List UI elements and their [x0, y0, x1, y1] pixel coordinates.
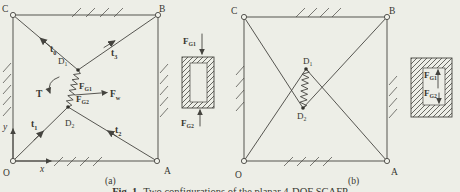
cable-t3 — [78, 15, 158, 70]
label-torque: T — [36, 89, 43, 99]
point-d2-dot-b — [301, 106, 305, 110]
hatch-ticks-top-b — [296, 8, 341, 17]
label-c-a: C — [2, 4, 8, 14]
hatch-ticks-right-a — [160, 64, 168, 117]
label-t3: t3 — [111, 48, 117, 60]
figure-number: Fig. 1 — [112, 186, 137, 192]
hatch-ticks-left-b — [236, 66, 244, 111]
figure-caption-text: Two configurations of the planar 4-DOF S… — [143, 186, 348, 192]
torque-arc-arrow — [49, 77, 59, 93]
label-b-b: B — [389, 6, 395, 16]
cable-a-d1 — [306, 69, 387, 161]
hatch-ticks-bottom-a — [54, 157, 102, 166]
anchor-c — [10, 12, 15, 17]
label-o-a: O — [3, 168, 10, 178]
cable-t1-arrow — [34, 132, 43, 141]
label-a-b: A — [391, 167, 398, 177]
label-fw: Fw — [110, 89, 121, 101]
diagram-a: C B O A t0 t3 t1 t2 D1 D2 FG1 FG2 Fw T x… — [2, 4, 171, 178]
inset-right-block: FG1 FG2 — [411, 58, 452, 117]
label-a-a: A — [164, 166, 171, 176]
anchor-o-b — [241, 158, 246, 163]
anchor-o — [10, 158, 15, 163]
hatch-ticks-right-b — [389, 76, 397, 118]
label-c-b: C — [231, 6, 237, 16]
point-d1-dot — [76, 68, 80, 72]
figure-caption: Fig. 1Two configurations of the planar 4… — [0, 186, 460, 192]
label-fg2-a: FG2 — [76, 94, 89, 105]
anchor-a-b — [384, 158, 389, 163]
inset-left-fg2-label: FG2 — [181, 118, 194, 129]
inset-left-inner — [190, 63, 207, 102]
label-x-axis: x — [39, 164, 45, 174]
cable-c-d2 — [244, 17, 303, 108]
hatch-ticks-top-a — [72, 8, 123, 17]
label-d1-b: D1 — [303, 56, 313, 67]
cable-b-d2 — [303, 17, 387, 108]
label-t1: t1 — [31, 119, 37, 131]
label-o-b: O — [235, 170, 242, 180]
anchor-c-b — [241, 14, 246, 19]
label-t2: t2 — [115, 125, 121, 137]
point-d1-dot-b — [304, 67, 308, 71]
inset-left-block: FG1 FG2 — [181, 34, 214, 129]
point-d2-dot — [66, 105, 70, 109]
figure-canvas: C B O A t0 t3 t1 t2 D1 D2 FG1 FG2 Fw T x… — [0, 0, 460, 192]
label-y-axis: y — [2, 122, 8, 132]
label-d1-a: D1 — [58, 56, 68, 67]
label-b-a: B — [159, 4, 165, 14]
label-t0: t0 — [50, 44, 56, 56]
label-d2-b: D2 — [297, 111, 307, 122]
anchor-a — [154, 158, 159, 163]
diagram-b: C B O A D1 D2 — [231, 6, 398, 180]
label-fg1-a: FG1 — [79, 81, 92, 92]
inset-left-fg1-label: FG1 — [183, 36, 196, 47]
hatch-ticks-bottom-b — [284, 157, 332, 166]
hatch-ticks-left-a — [3, 63, 11, 116]
cable-t0-arrow — [41, 39, 51, 47]
frame-b — [244, 17, 387, 161]
label-d2-a: D2 — [65, 118, 75, 129]
page: { "colors": { "background": "#edeee7", "… — [0, 0, 460, 192]
